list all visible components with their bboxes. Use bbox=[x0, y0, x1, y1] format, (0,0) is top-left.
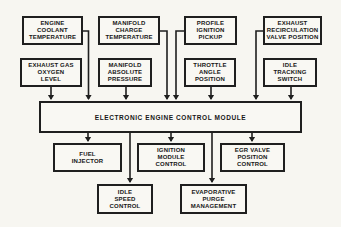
node-label: THROTTLE ANGLE POSITION bbox=[193, 62, 226, 83]
node-label: PROFILE IGNITION PICKUP bbox=[196, 20, 224, 41]
node-label: IDLE TRACKING SWITCH bbox=[273, 62, 306, 83]
engine-control-block-diagram: ENGINE COOLANT TEMPERATURE MANIFOLD CHAR… bbox=[0, 0, 341, 227]
node-label: MANIFOLD CHARGE TEMPERATURE bbox=[105, 20, 152, 41]
node-label: ELECTRONIC ENGINE CONTROL MODULE bbox=[95, 114, 247, 121]
node-label: MANIFOLD ABSOLUTE PRESSURE bbox=[108, 62, 142, 83]
node-label: IDLE SPEED CONTROL bbox=[110, 189, 141, 210]
node-label: EVAPORATIVE PURGE MANAGEMENT bbox=[191, 189, 236, 210]
node-label: FUEL INJECTOR bbox=[72, 151, 104, 165]
node-engine-coolant-temperature: ENGINE COOLANT TEMPERATURE bbox=[22, 16, 83, 45]
node-manifold-charge-temperature: MANIFOLD CHARGE TEMPERATURE bbox=[98, 16, 160, 45]
connector-exhaust-recirculation-valve-position bbox=[256, 31, 263, 99]
node-fuel-injector: FUEL INJECTOR bbox=[53, 143, 122, 172]
node-manifold-absolute-pressure: MANIFOLD ABSOLUTE PRESSURE bbox=[98, 58, 152, 87]
node-label: IGNITION MODULE CONTROL bbox=[156, 147, 187, 168]
node-idle-tracking-switch: IDLE TRACKING SWITCH bbox=[263, 58, 317, 87]
connector-engine-coolant-temperature bbox=[83, 31, 89, 99]
node-exhaust-gas-oxygen-level: EXHAUST GAS OXYGEN LEVEL bbox=[20, 58, 82, 87]
node-throttle-angle-position: THROTTLE ANGLE POSITION bbox=[184, 58, 236, 87]
node-exhaust-recirculation-valve-position: EXHAUST RECIRCULATION VALVE POSITION bbox=[263, 16, 322, 45]
node-label: EXHAUST GAS OXYGEN LEVEL bbox=[28, 62, 73, 83]
node-label: EXHAUST RECIRCULATION VALVE POSITION bbox=[267, 20, 319, 41]
node-egr-valve-position-control: EGR VALVE POSITION CONTROL bbox=[220, 143, 285, 172]
node-profile-ignition-pickup: PROFILE IGNITION PICKUP bbox=[184, 16, 237, 45]
node-electronic-engine-control-module: ELECTRONIC ENGINE CONTROL MODULE bbox=[39, 101, 302, 133]
node-ignition-module-control: IGNITION MODULE CONTROL bbox=[137, 143, 205, 172]
node-evaporative-purge-management: EVAPORATIVE PURGE MANAGEMENT bbox=[180, 184, 247, 214]
node-label: ENGINE COOLANT TEMPERATURE bbox=[29, 20, 76, 41]
connector-profile-ignition-pickup bbox=[176, 31, 184, 99]
node-idle-speed-control: IDLE SPEED CONTROL bbox=[97, 184, 153, 214]
node-label: EGR VALVE POSITION CONTROL bbox=[235, 147, 270, 168]
connector-manifold-charge-temperature bbox=[160, 31, 167, 99]
